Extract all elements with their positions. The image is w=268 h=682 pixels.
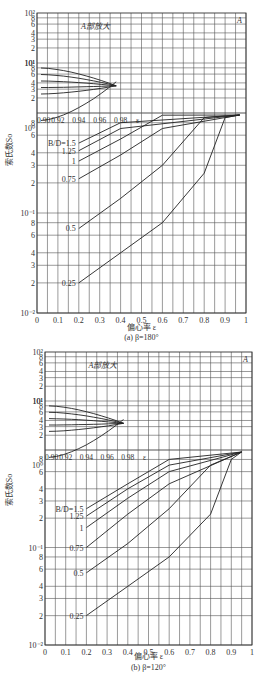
svg-text:0.1: 0.1 xyxy=(53,316,63,325)
svg-text:10⁻¹: 10⁻¹ xyxy=(21,209,36,218)
svg-text:0.6: 0.6 xyxy=(164,648,174,657)
svg-text:0.90: 0.90 xyxy=(45,453,58,462)
svg-text:10⁰: 10⁰ xyxy=(32,461,43,470)
curve-1 xyxy=(86,452,241,528)
svg-text:0.6: 0.6 xyxy=(157,316,167,325)
svg-text:1: 1 xyxy=(244,316,248,325)
svg-text:2: 2 xyxy=(31,94,35,103)
svg-text:2: 2 xyxy=(39,382,43,391)
svg-text:(a) β=180°: (a) β=180° xyxy=(124,333,159,342)
svg-text:0.96: 0.96 xyxy=(93,116,106,125)
svg-text:(b) β=120°: (b) β=120° xyxy=(131,663,166,672)
svg-text:1: 1 xyxy=(79,524,83,533)
svg-text:4: 4 xyxy=(39,485,43,494)
svg-text:0.2: 0.2 xyxy=(74,316,84,325)
svg-text:ε: ε xyxy=(136,116,139,125)
svg-text:0.8: 0.8 xyxy=(199,316,209,325)
svg-text:10⁻²: 10⁻² xyxy=(29,641,44,650)
svg-text:4: 4 xyxy=(39,582,43,591)
svg-text:8: 8 xyxy=(39,553,43,562)
svg-text:2: 2 xyxy=(31,279,35,288)
svg-text:0.98: 0.98 xyxy=(121,453,134,462)
svg-text:0.8: 0.8 xyxy=(206,648,216,657)
svg-text:0.75: 0.75 xyxy=(69,544,83,553)
svg-text:ε: ε xyxy=(143,453,146,462)
svg-text:0.25: 0.25 xyxy=(69,612,83,621)
svg-text:A部放大: A部放大 xyxy=(88,361,119,370)
svg-text:0.98: 0.98 xyxy=(114,116,127,125)
svg-text:1.25: 1.25 xyxy=(62,147,76,156)
svg-text:2: 2 xyxy=(39,431,43,440)
svg-text:10⁻¹: 10⁻¹ xyxy=(29,544,44,553)
svg-text:4: 4 xyxy=(31,79,35,88)
svg-text:0.4: 0.4 xyxy=(123,648,133,657)
svg-text:索氏数So: 索氏数So xyxy=(4,474,14,506)
svg-text:0.1: 0.1 xyxy=(61,648,71,657)
svg-text:0.5: 0.5 xyxy=(73,569,83,578)
svg-text:10¹: 10¹ xyxy=(33,397,44,406)
curve-0.25 xyxy=(79,115,240,283)
svg-text:0: 0 xyxy=(43,648,47,657)
svg-text:2: 2 xyxy=(39,612,43,621)
svg-text:0.3: 0.3 xyxy=(102,648,112,657)
svg-text:0.96: 0.96 xyxy=(101,453,114,462)
svg-text:0.94: 0.94 xyxy=(80,453,93,462)
svg-text:0.3: 0.3 xyxy=(95,316,105,325)
svg-text:1: 1 xyxy=(250,648,254,657)
curve-0.5 xyxy=(79,115,240,229)
svg-text:A: A xyxy=(236,16,242,25)
curve-0.25 xyxy=(86,452,241,616)
svg-text:10⁻²: 10⁻² xyxy=(21,309,36,318)
svg-text:0.94: 0.94 xyxy=(72,116,85,125)
chart-b: 10⁻²2346810⁻¹2346810⁰2346810¹2346810¹10²… xyxy=(4,348,254,672)
svg-text:0.9: 0.9 xyxy=(220,316,230,325)
svg-text:4: 4 xyxy=(31,249,35,258)
svg-text:索氏数So: 索氏数So xyxy=(4,134,14,166)
svg-text:3: 3 xyxy=(39,594,43,603)
svg-text:8: 8 xyxy=(31,219,35,228)
svg-text:偏心率 ε: 偏心率 ε xyxy=(127,322,157,332)
svg-text:4: 4 xyxy=(31,29,35,38)
svg-text:10¹: 10¹ xyxy=(25,59,36,68)
svg-text:1.25: 1.25 xyxy=(69,512,83,521)
svg-text:0.4: 0.4 xyxy=(116,316,126,325)
chart-a: 10⁻²2346810⁻¹2346810⁰2346810¹2346810¹10²… xyxy=(4,9,248,342)
svg-text:4: 4 xyxy=(39,416,43,425)
curve-0.5 xyxy=(86,452,241,573)
bearing-sommerfeld-charts: 10⁻²2346810⁻¹2346810⁰2346810¹2346810¹10²… xyxy=(0,0,268,682)
svg-text:A: A xyxy=(242,355,248,364)
svg-text:1: 1 xyxy=(72,157,76,166)
svg-text:0.9: 0.9 xyxy=(226,648,236,657)
svg-text:10²: 10² xyxy=(33,348,44,357)
svg-text:6: 6 xyxy=(31,231,35,240)
svg-text:4: 4 xyxy=(31,149,35,158)
svg-text:0.7: 0.7 xyxy=(185,648,195,657)
svg-text:2: 2 xyxy=(31,44,35,53)
svg-text:2: 2 xyxy=(31,179,35,188)
svg-text:0.92: 0.92 xyxy=(59,453,72,462)
svg-text:0.25: 0.25 xyxy=(62,279,76,288)
svg-text:0: 0 xyxy=(35,316,39,325)
svg-text:3: 3 xyxy=(31,261,35,270)
svg-text:6: 6 xyxy=(39,565,43,574)
svg-text:0.2: 0.2 xyxy=(81,648,91,657)
svg-text:0.5: 0.5 xyxy=(66,224,76,233)
svg-text:2: 2 xyxy=(39,514,43,523)
svg-text:4: 4 xyxy=(39,367,43,376)
svg-text:0.7: 0.7 xyxy=(178,316,188,325)
svg-text:10⁰: 10⁰ xyxy=(24,124,35,133)
svg-text:0.75: 0.75 xyxy=(62,175,76,184)
svg-text:10²: 10² xyxy=(25,9,36,18)
svg-text:A部放大: A部放大 xyxy=(80,22,111,31)
curve-0.75 xyxy=(86,452,241,548)
svg-text:3: 3 xyxy=(31,161,35,170)
svg-text:偏心率 ε: 偏心率 ε xyxy=(134,651,164,661)
svg-text:3: 3 xyxy=(39,497,43,506)
